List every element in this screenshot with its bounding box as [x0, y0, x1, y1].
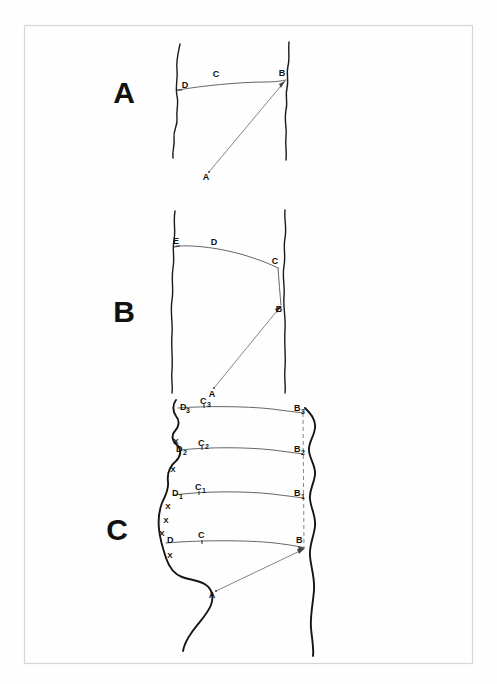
- panel-b-label-e: E: [173, 236, 179, 246]
- panel-b-track-edc: [176, 246, 278, 268]
- panel-c-label-c2-base: C: [198, 438, 205, 448]
- panel-label-a: A: [113, 76, 135, 109]
- panel-c-label-d1: D 1: [172, 488, 183, 500]
- panel-c-label-b1-sub: 1: [301, 493, 305, 500]
- panel-c-track-d1c1b1: [174, 492, 303, 498]
- panel-c-right-contour: [305, 408, 315, 656]
- panel-c-label-d1-base: D: [172, 488, 179, 498]
- panel-b-label-b: B: [276, 304, 283, 314]
- panel-a: A A B C D: [113, 42, 289, 182]
- panel-c-track-d2c2b2: [180, 448, 303, 454]
- panel-c-label-c1-sub: 1: [202, 487, 206, 494]
- panel-a-track-dcb: [178, 80, 286, 90]
- panel-c-dashed-b-axis: [303, 413, 304, 548]
- panel-c-label-b2-sub: 2: [301, 449, 305, 456]
- panel-a-label-b: B: [279, 68, 286, 78]
- panel-c-x-marker-1: X: [173, 437, 179, 446]
- panel-a-ray-ab: [209, 81, 285, 172]
- panel-c-label-a: A: [209, 590, 216, 600]
- panel-c-label-d3: D 3: [180, 402, 190, 414]
- panel-b-label-c: C: [272, 256, 279, 266]
- panel-c-label-b3-base: B: [294, 403, 301, 413]
- panel-c-label-c3-base: C: [200, 396, 207, 406]
- figure-root: A A B C D B A B C: [0, 0, 497, 684]
- panel-c-label-c1-base: C: [195, 482, 202, 492]
- panel-a-right-contour: [285, 42, 289, 160]
- panel-c: C D 3 C 3 B 3 D 2 C: [106, 396, 315, 656]
- panel-c-x-marker-3: X: [165, 502, 171, 511]
- panel-a-label-a: A: [203, 172, 210, 182]
- panel-c-label-b3-sub: 3: [301, 408, 305, 415]
- panel-a-label-c: C: [213, 69, 220, 79]
- panel-c-track-d3c3b3: [178, 407, 303, 413]
- panel-b: B A B C D E: [113, 210, 286, 399]
- panel-c-x-marker-6: X: [167, 551, 173, 560]
- panel-b-segment-cb: [278, 268, 281, 305]
- panel-c-label-d2-sub: 2: [183, 449, 187, 456]
- panel-b-label-d: D: [211, 237, 218, 247]
- panel-c-point-a-dot: [215, 590, 217, 592]
- figure-canvas: A A B C D B A B C: [0, 0, 497, 684]
- panel-b-tick-e: [174, 246, 180, 247]
- panel-c-label-c3-sub: 3: [207, 401, 211, 408]
- panel-c-ray-ab: [216, 549, 304, 591]
- panel-c-x-marker-5: X: [159, 529, 165, 538]
- panel-c-label-b3: B 3: [294, 403, 305, 415]
- panel-a-left-contour: [173, 44, 180, 158]
- panel-b-right-contour: [283, 210, 285, 393]
- panel-c-x-marker-4: X: [163, 516, 169, 525]
- panel-label-b: B: [113, 295, 135, 328]
- panel-c-label-b: B: [296, 535, 303, 545]
- panel-c-arrowhead-b-ray: [297, 549, 304, 554]
- panel-c-label-b1-base: B: [294, 488, 301, 498]
- panel-c-label-d: D: [167, 535, 174, 545]
- panel-b-label-a: A: [209, 389, 216, 399]
- panel-c-label-d1-sub: 1: [179, 493, 183, 500]
- panel-c-label-b2-base: B: [294, 444, 301, 454]
- panel-c-label-c2-sub: 2: [205, 443, 209, 450]
- panel-c-label-b1: B 1: [294, 488, 305, 500]
- panel-c-x-marker-2: X: [170, 465, 176, 474]
- panel-label-c: C: [106, 513, 128, 546]
- panel-c-label-b2: B 2: [294, 444, 305, 456]
- panel-c-label-d3-sub: 3: [186, 407, 190, 414]
- panel-a-label-d: D: [182, 80, 189, 90]
- panel-b-ray-ab: [214, 306, 281, 388]
- panel-c-label-c-point: C: [198, 530, 205, 540]
- panel-c-track-dcb: [166, 541, 304, 548]
- figure-frame: [25, 26, 473, 664]
